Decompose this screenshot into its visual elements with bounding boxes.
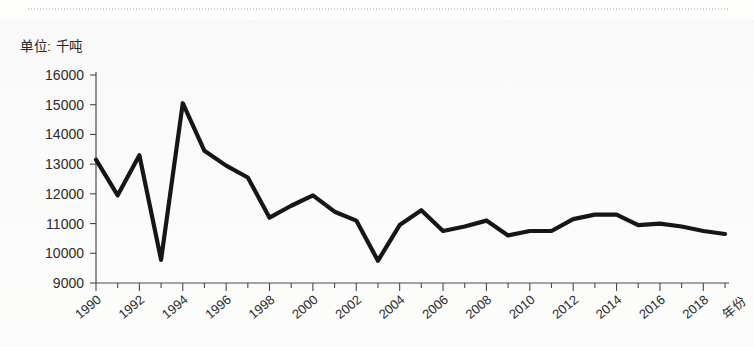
x-tick-label: 1996 [202,292,234,322]
x-tick-label: 2010 [506,292,538,322]
y-tick-label: 14000 [45,126,84,142]
x-axis-tick-labels: 1990199219941996199820002002200420062008… [72,292,711,322]
chart-page: 单位: 千吨 900010000110001200013000140001500… [0,0,754,347]
x-axis-tick-marks [96,283,725,291]
y-tick-label: 12000 [45,186,84,202]
y-tick-label: 15000 [45,97,84,113]
y-tick-label: 16000 [45,67,84,83]
y-tick-label: 11000 [46,216,84,232]
y-tick-label: 10000 [45,245,84,261]
x-tick-label: 1992 [116,292,148,322]
x-tick-label: 2006 [419,292,451,322]
y-tick-label: 13000 [45,156,84,172]
y-axis-tick-marks [90,75,96,283]
x-tick-label: 2016 [636,292,668,322]
x-tick-label: 2000 [289,292,321,322]
chart-svg: 900010000110001200013000140001500016000 … [0,0,754,347]
line-chart: 900010000110001200013000140001500016000 … [0,0,754,347]
x-tick-label: 1990 [72,292,104,322]
x-tick-label: 2014 [593,292,625,322]
data-series-line [96,103,725,260]
x-tick-label: 2012 [549,292,581,322]
x-tick-label: 2018 [679,292,711,322]
y-axis-tick-labels: 900010000110001200013000140001500016000 [45,67,84,291]
y-tick-label: 9000 [53,275,84,291]
x-tick-label: 2002 [332,292,364,322]
x-tick-label: 2008 [463,292,495,322]
x-tick-label: 2004 [376,292,408,322]
x-tick-label: 1998 [246,292,278,322]
x-axis-title: 年份 [719,294,749,322]
x-tick-label: 1994 [159,292,191,322]
